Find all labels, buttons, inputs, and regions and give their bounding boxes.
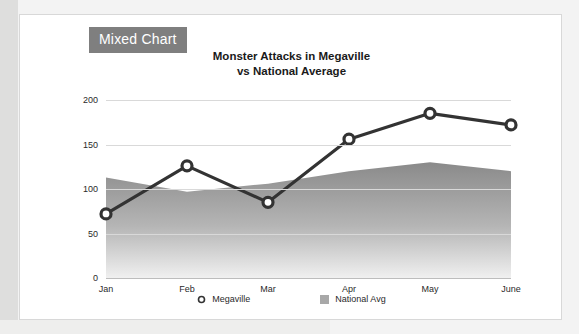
- data-point-june[interactable]: [506, 120, 516, 130]
- y-axis-tick-100: 100: [58, 184, 98, 194]
- chart-card: Mixed Chart Monster Attacks in Megaville…: [19, 14, 562, 320]
- chart-title-line-2: vs National Average: [20, 64, 563, 79]
- data-point-jan[interactable]: [101, 209, 111, 219]
- data-point-feb[interactable]: [182, 161, 192, 171]
- legend-item-megaville[interactable]: Megaville: [197, 294, 250, 304]
- left-gray-band: [0, 0, 18, 334]
- chart-legend: Megaville National Avg: [20, 294, 563, 304]
- bottom-gray-band: [0, 320, 330, 334]
- data-point-apr[interactable]: [344, 134, 354, 144]
- gridline-100: [106, 189, 511, 190]
- legend-label-megaville: Megaville: [212, 294, 250, 304]
- y-axis-tick-200: 200: [58, 95, 98, 105]
- gridline-50: [106, 234, 511, 235]
- x-axis-tick-apr: Apr: [342, 284, 356, 294]
- y-axis-tick-50: 50: [58, 229, 98, 239]
- legend-item-national-avg[interactable]: National Avg: [320, 294, 385, 304]
- legend-label-national-avg: National Avg: [335, 294, 385, 304]
- x-axis-tick-jan: Jan: [99, 284, 114, 294]
- plot-area: 050100150200JanFebMarAprMayJune: [106, 100, 511, 278]
- chart-title: Monster Attacks in Megaville vs National…: [20, 49, 563, 79]
- gridline-200: [106, 100, 511, 101]
- data-point-mar[interactable]: [263, 197, 273, 207]
- circle-open-icon: [197, 295, 206, 304]
- square-swatch-icon: [320, 295, 329, 304]
- gridline-150: [106, 145, 511, 146]
- x-axis-tick-may: May: [421, 284, 438, 294]
- chart-title-line-1: Monster Attacks in Megaville: [213, 50, 370, 62]
- x-axis-tick-mar: Mar: [260, 284, 276, 294]
- y-axis-tick-150: 150: [58, 140, 98, 150]
- y-axis-tick-0: 0: [58, 273, 98, 283]
- gridline-0: [106, 278, 511, 279]
- x-axis-tick-june: June: [501, 284, 521, 294]
- page-background: Mixed Chart Monster Attacks in Megaville…: [0, 0, 579, 334]
- x-axis-tick-feb: Feb: [179, 284, 195, 294]
- data-point-may[interactable]: [425, 108, 435, 118]
